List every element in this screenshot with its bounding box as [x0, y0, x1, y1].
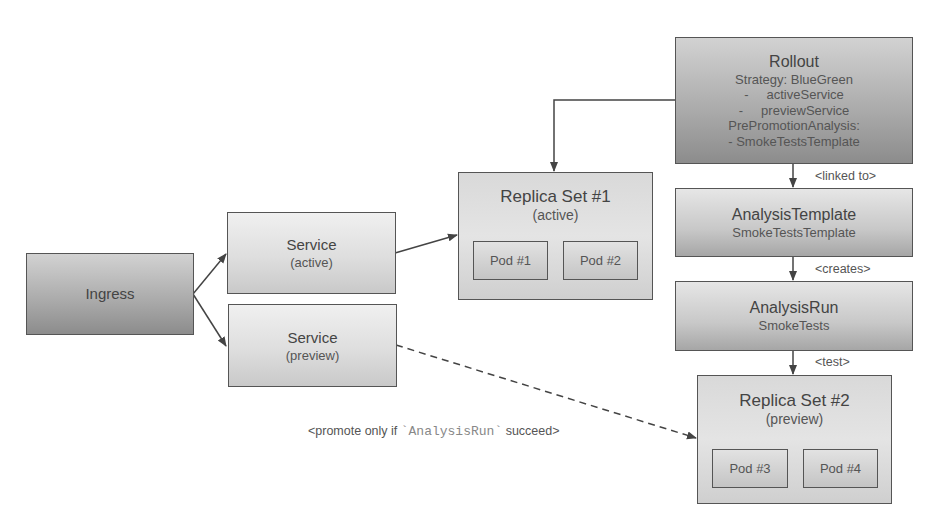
pod-2-label: Pod #2: [580, 253, 621, 269]
replica-set-2-title: Replica Set #2: [739, 391, 850, 411]
service-active-title: Service: [286, 235, 336, 255]
service-preview-title: Service: [287, 328, 337, 348]
rollout-prepromotion-analysis: PrePromotionAnalysis:: [728, 118, 860, 134]
pod-3-label: Pod #3: [729, 461, 770, 477]
replica-set-1-title: Replica Set #1: [500, 187, 611, 207]
promote-prefix: <promote only if: [308, 424, 401, 438]
analysis-run-title: AnalysisRun: [750, 298, 839, 318]
analysis-template-title: AnalysisTemplate: [732, 205, 857, 225]
edge-ingress-to-service-preview: [193, 294, 226, 346]
edge-ingress-to-service-active: [193, 254, 226, 294]
edge-label-test: <test>: [815, 355, 850, 369]
rollout-preview-service: - previewService: [739, 103, 850, 119]
rollout-title: Rollout: [769, 52, 819, 72]
edge-service-active-to-replica-set-1: [395, 235, 457, 253]
analysis-template-subtitle: SmokeTestsTemplate: [732, 225, 856, 241]
replica-set-1-node: Replica Set #1 (active): [458, 172, 653, 300]
pod-2-node: Pod #2: [563, 241, 638, 280]
analysis-template-node: AnalysisTemplate SmokeTestsTemplate: [675, 188, 913, 257]
service-preview-subtitle: (preview): [286, 348, 339, 364]
ingress-title: Ingress: [85, 284, 134, 304]
pod-4-node: Pod #4: [803, 449, 878, 488]
pod-1-node: Pod #1: [473, 241, 548, 280]
analysis-run-subtitle: SmokeTests: [759, 318, 830, 334]
rollout-active-service: - activeService: [744, 87, 844, 103]
edge-label-linked-to: <linked to>: [815, 169, 876, 183]
edge-label-creates: <creates>: [815, 262, 871, 276]
rollout-node: Rollout Strategy: BlueGreen - activeServ…: [675, 37, 913, 164]
pod-4-label: Pod #4: [820, 461, 861, 477]
replica-set-2-subtitle: (preview): [766, 411, 824, 427]
rollout-smoke-tests-template: - SmokeTestsTemplate: [728, 134, 860, 150]
pod-1-label: Pod #1: [490, 253, 531, 269]
replica-set-1-subtitle: (active): [533, 207, 579, 223]
analysis-run-node: AnalysisRun SmokeTests: [675, 281, 913, 351]
service-preview-node: Service (preview): [228, 304, 397, 387]
rollout-strategy: Strategy: BlueGreen: [735, 72, 853, 88]
service-active-node: Service (active): [227, 212, 396, 294]
promote-suffix: succeed>: [502, 424, 559, 438]
pod-3-node: Pod #3: [712, 449, 788, 488]
edge-rollout-to-replica-set-1: [554, 100, 675, 171]
edge-label-promote: <promote only if `AnalysisRun` succeed>: [308, 424, 560, 439]
ingress-node: Ingress: [26, 253, 194, 335]
promote-code: `AnalysisRun`: [401, 424, 502, 439]
service-active-subtitle: (active): [290, 255, 333, 271]
